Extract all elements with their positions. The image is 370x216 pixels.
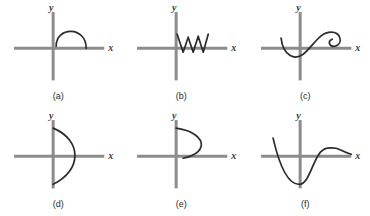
y-axis-label-b: y (171, 2, 177, 13)
plot-curve-cubic-wave (273, 138, 351, 184)
plot-curve-zigzag-wave (177, 34, 208, 52)
y-axis-label-f: y (295, 110, 301, 121)
x-axis-label-a: x (107, 42, 113, 53)
plot-curve-semicircular-arch (56, 31, 86, 48)
plot-curve-s-curve-with-spiral (281, 32, 340, 57)
figure-panel-e: x y (e) (123, 108, 246, 216)
figure-grid: x y (a) x y (b) x y (c) x (0, 0, 370, 215)
panel-plot-e: x y (e) (123, 108, 246, 216)
y-axis-label-c: y (295, 2, 301, 13)
panel-plot-f: x y (f) (247, 108, 370, 216)
figure-panel-a: x y (a) (0, 0, 123, 108)
figure-panel-b: x y (b) (123, 0, 246, 108)
panel-caption-a: (a) (53, 91, 64, 101)
x-axis-label-c: x (354, 42, 360, 53)
y-axis-label-e: y (171, 110, 177, 121)
panel-caption-e: (e) (176, 199, 187, 209)
x-axis-label-f: x (354, 150, 360, 161)
x-axis-label-d: x (107, 150, 113, 161)
panel-plot-c: x y (c) (247, 0, 370, 108)
y-axis-label-a: y (48, 2, 54, 13)
panel-plot-a: x y (a) (0, 0, 123, 108)
plot-curve-rightward-opening-arc (176, 128, 201, 158)
panel-plot-b: x y (b) (123, 0, 246, 108)
panel-caption-c: (c) (300, 91, 311, 101)
panel-caption-f: (f) (301, 199, 310, 209)
figure-panel-d: x y (d) (0, 108, 123, 216)
x-axis-label-e: x (231, 150, 237, 161)
y-axis-label-d: y (48, 110, 54, 121)
figure-panel-f: x y (f) (247, 108, 370, 216)
panel-caption-b: (b) (176, 91, 187, 101)
panel-caption-d: (d) (53, 199, 64, 209)
x-axis-label-b: x (231, 42, 237, 53)
figure-panel-c: x y (c) (247, 0, 370, 108)
panel-plot-d: x y (d) (0, 108, 123, 216)
